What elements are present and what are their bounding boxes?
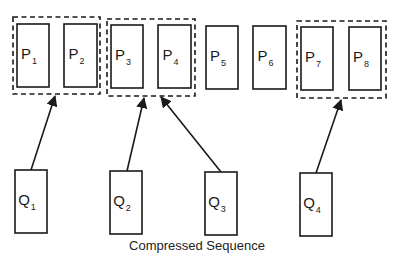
- arrow-q2-to-group-2: [127, 98, 144, 171]
- original-sequence: P1P2P3P4P5P6P7P8: [17, 24, 381, 90]
- p-box-p1: P1: [17, 24, 49, 87]
- compression-diagram: P1P2P3P4P5P6P7P8 Q1Q2Q3Q4 Compressed Seq…: [0, 0, 395, 262]
- q-box-q1: Q1: [15, 170, 47, 233]
- q-box-q2: Q2: [110, 171, 142, 234]
- p-box-p7: P7: [301, 27, 333, 90]
- arrow-q4-to-group-3: [316, 100, 341, 173]
- arrow-q3-to-group-2: [161, 97, 221, 172]
- p-box-p6: P6: [253, 26, 286, 89]
- p-box-p4: P4: [158, 25, 191, 88]
- caption-compressed-sequence: Compressed Sequence: [129, 238, 265, 253]
- mapping-arrows: [31, 96, 341, 173]
- p-box-p8: P8: [349, 27, 381, 90]
- arrow-q1-to-group-1: [31, 96, 55, 170]
- q-box-q4: Q4: [300, 173, 332, 236]
- p-box-p5: P5: [206, 26, 238, 89]
- q-box-q3: Q3: [205, 172, 237, 235]
- p-box-p3: P3: [111, 25, 143, 88]
- p-box-p2: P2: [64, 24, 97, 87]
- compressed-sequence: Q1Q2Q3Q4: [15, 170, 332, 236]
